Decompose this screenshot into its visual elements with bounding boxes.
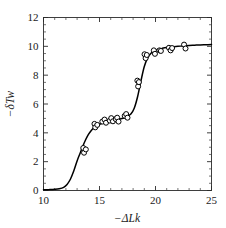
chart-figure: 10152025 024681012 −ΔLk −δTw (0, 0, 226, 228)
y-tick-label: 0 (33, 184, 39, 196)
data-point (144, 52, 149, 57)
data-point (183, 46, 188, 51)
data-point (152, 51, 157, 56)
y-tick-label: 4 (33, 127, 39, 139)
plot-canvas: 10152025 024681012 −ΔLk −δTw (0, 0, 226, 228)
data-point (116, 119, 121, 124)
x-tick-label: 15 (94, 194, 106, 206)
data-point (136, 80, 141, 85)
x-tick-label: 20 (150, 194, 162, 206)
x-axis-label: −ΔLk (114, 212, 141, 224)
y-tick-label: 8 (33, 69, 39, 81)
y-axis-label: −δTw (4, 91, 16, 118)
y-tick-label: 6 (33, 98, 39, 110)
y-tick-label: 10 (28, 40, 40, 52)
x-axis-tick-labels: 10152025 (38, 194, 218, 206)
data-point-markers (81, 42, 188, 155)
data-point (83, 147, 88, 152)
data-point (170, 46, 175, 51)
y-tick-label: 2 (33, 155, 39, 167)
y-tick-label: 12 (28, 11, 39, 23)
y-axis-tick-labels: 024681012 (28, 11, 40, 196)
data-point (95, 122, 100, 127)
data-point (125, 115, 130, 120)
x-tick-label: 25 (206, 194, 218, 206)
data-point (158, 48, 163, 53)
x-tick-label: 10 (38, 194, 50, 206)
